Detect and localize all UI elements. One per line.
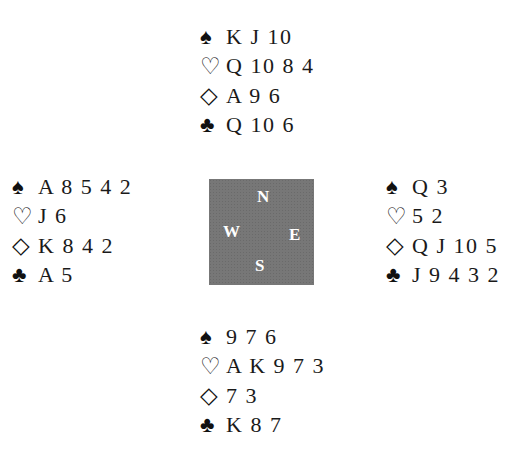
north-diamonds-cards: A 9 6 [226, 83, 281, 109]
south-spades-cards: 9 7 6 [226, 324, 278, 350]
heart-icon: ♡ [200, 355, 226, 378]
club-icon: ♣ [200, 114, 226, 136]
south-hearts-row: ♡A K 9 7 3 [200, 352, 325, 382]
compass-east: E [289, 225, 300, 245]
diamond-icon: ◇ [200, 384, 226, 407]
heart-icon: ♡ [386, 205, 412, 228]
east-diamonds-cards: Q J 10 5 [412, 233, 498, 259]
spade-icon: ♠ [386, 176, 412, 198]
spade-icon: ♠ [200, 26, 226, 48]
west-hearts-row: ♡J 6 [12, 202, 132, 232]
north-spades-cards: K J 10 [226, 24, 292, 50]
diamond-icon: ◇ [12, 234, 38, 257]
west-spades-cards: A 8 5 4 2 [38, 174, 132, 200]
west-spades-row: ♠A 8 5 4 2 [12, 172, 132, 202]
east-spades-cards: Q 3 [412, 174, 449, 200]
south-spades-row: ♠9 7 6 [200, 322, 325, 352]
west-clubs-row: ♣A 5 [12, 261, 132, 291]
diamond-icon: ◇ [200, 84, 226, 107]
south-clubs-cards: K 8 7 [226, 412, 282, 438]
compass-south: S [255, 256, 264, 276]
club-icon: ♣ [386, 264, 412, 286]
south-hearts-cards: A K 9 7 3 [226, 353, 325, 379]
east-clubs-cards: J 9 4 3 2 [412, 262, 500, 288]
spade-icon: ♠ [12, 176, 38, 198]
west-hearts-cards: J 6 [38, 203, 68, 229]
south-hand: ♠9 7 6 ♡A K 9 7 3 ◇7 3 ♣K 8 7 [200, 322, 325, 440]
north-clubs-row: ♣Q 10 6 [200, 111, 314, 141]
north-clubs-cards: Q 10 6 [226, 112, 295, 138]
east-hearts-cards: 5 2 [412, 203, 444, 229]
diamond-icon: ◇ [386, 234, 412, 257]
compass-box: N W E S [209, 179, 314, 285]
north-hand: ♠K J 10 ♡Q 10 8 4 ◇A 9 6 ♣Q 10 6 [200, 22, 314, 140]
north-spades-row: ♠K J 10 [200, 22, 314, 52]
east-diamonds-row: ◇Q J 10 5 [386, 231, 500, 261]
compass-north: N [257, 187, 269, 207]
east-hand: ♠Q 3 ♡5 2 ◇Q J 10 5 ♣J 9 4 3 2 [386, 172, 500, 290]
east-hearts-row: ♡5 2 [386, 202, 500, 232]
heart-icon: ♡ [200, 55, 226, 78]
south-diamonds-row: ◇7 3 [200, 381, 325, 411]
west-diamonds-row: ◇K 8 4 2 [12, 231, 132, 261]
east-clubs-row: ♣J 9 4 3 2 [386, 261, 500, 291]
south-diamonds-cards: 7 3 [226, 383, 258, 409]
north-hearts-row: ♡Q 10 8 4 [200, 52, 314, 82]
west-clubs-cards: A 5 [38, 262, 74, 288]
spade-icon: ♠ [200, 326, 226, 348]
east-spades-row: ♠Q 3 [386, 172, 500, 202]
club-icon: ♣ [200, 414, 226, 436]
west-diamonds-cards: K 8 4 2 [38, 233, 114, 259]
north-diamonds-row: ◇A 9 6 [200, 81, 314, 111]
compass-west: W [223, 222, 240, 242]
heart-icon: ♡ [12, 205, 38, 228]
north-hearts-cards: Q 10 8 4 [226, 53, 314, 79]
club-icon: ♣ [12, 264, 38, 286]
south-clubs-row: ♣K 8 7 [200, 411, 325, 441]
west-hand: ♠A 8 5 4 2 ♡J 6 ◇K 8 4 2 ♣A 5 [12, 172, 132, 290]
